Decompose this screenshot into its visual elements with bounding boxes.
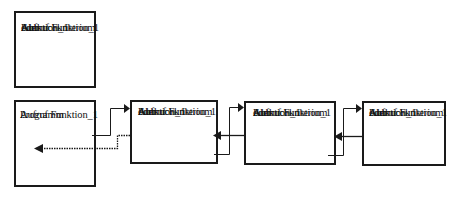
- arrowhead-icon: [238, 103, 244, 112]
- connector-layer: [0, 0, 457, 199]
- arrowhead-icon: [334, 132, 342, 141]
- call-arrow-program-to-box1: [92, 109, 126, 136]
- arrowhead-icon: [34, 144, 43, 153]
- arrowhead-icon: [213, 131, 221, 140]
- call-arrow-box1-to-box2: [214, 108, 240, 155]
- call-arrow-box2-to-box3: [328, 109, 358, 156]
- arrowhead-icon: [356, 104, 362, 113]
- arrowhead-icon: [124, 104, 130, 113]
- return-arrow-box1-to-program: [42, 136, 130, 149]
